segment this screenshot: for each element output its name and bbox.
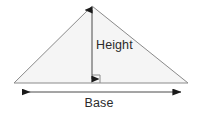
height-label: Height	[96, 38, 133, 52]
triangle-diagram: Height Base	[0, 0, 198, 115]
base-label: Base	[0, 96, 198, 110]
